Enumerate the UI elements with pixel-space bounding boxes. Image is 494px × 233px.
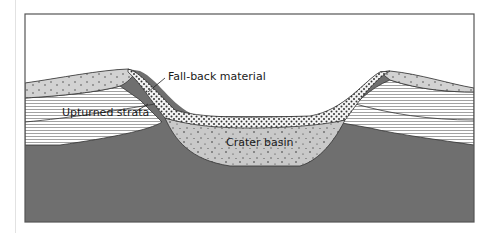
fallback-material-label: Fall-back material	[168, 70, 266, 83]
crater-cross-section-diagram: Fall-back material Upturned strata Crate…	[0, 0, 494, 233]
upturned-strata-label: Upturned strata	[62, 106, 149, 119]
crater-basin-label: Crater basin	[226, 136, 294, 149]
